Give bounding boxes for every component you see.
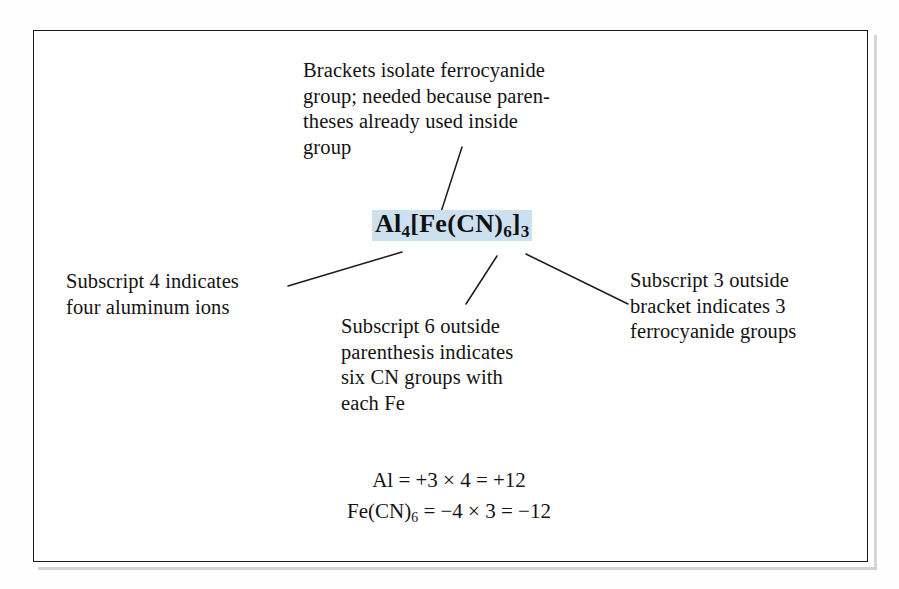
formula-subscript-4: 4: [402, 222, 411, 241]
charge-species-al: Al: [372, 468, 393, 492]
formula-subscript-6: 6: [503, 222, 512, 241]
charge-balance-line-aluminum: Al = +3 × 4 = +12: [229, 466, 669, 497]
formula-segment-al: Al: [375, 209, 402, 238]
charge-species-fecn-subscript: 6: [411, 510, 418, 525]
chemical-formula-text: Al4[Fe(CN)6]3: [375, 211, 529, 240]
callout-subscript-3-ferrocyanide: Subscript 3 outside bracket indicates 3 …: [630, 268, 860, 345]
figure-canvas: Brackets isolate ferrocyanide group; nee…: [0, 0, 899, 589]
charge-species-fecn: Fe(CN): [347, 499, 411, 523]
callout-subscript-4-aluminum: Subscript 4 indicates four aluminum ions: [66, 269, 316, 320]
chemical-formula-highlight: Al4[Fe(CN)6]3: [372, 210, 532, 241]
charge-balance-block: Al = +3 × 4 = +12 Fe(CN)6 = −4 × 3 = −12: [229, 466, 669, 528]
formula-segment-bracket-fe-cn: [Fe(CN): [410, 209, 503, 238]
callout-subscript-6-cn-groups: Subscript 6 outside parenthesis indicate…: [341, 314, 586, 416]
formula-subscript-3: 3: [521, 222, 530, 241]
callout-brackets-isolate-group: Brackets isolate ferrocyanide group; nee…: [303, 58, 613, 160]
charge-expression-fecn: = −4 × 3 = −12: [418, 499, 551, 523]
charge-expression-al: = +3 × 4 = +12: [393, 468, 526, 492]
formula-segment-close-bracket: ]: [512, 209, 521, 238]
charge-balance-line-ferrocyanide: Fe(CN)6 = −4 × 3 = −12: [229, 497, 669, 528]
